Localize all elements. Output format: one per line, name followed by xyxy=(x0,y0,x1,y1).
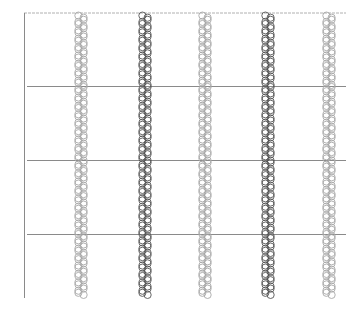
marker-strip xyxy=(323,12,335,299)
marker-strips xyxy=(75,12,335,299)
scatter-chart xyxy=(0,0,346,323)
marker-strip xyxy=(199,12,211,299)
axes xyxy=(24,13,346,298)
marker-strip xyxy=(139,12,151,299)
marker-strip xyxy=(262,12,274,299)
marker-strip xyxy=(75,12,87,299)
